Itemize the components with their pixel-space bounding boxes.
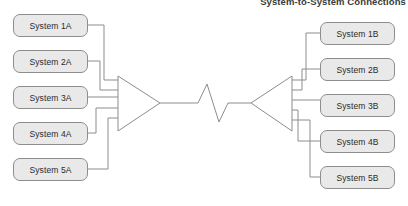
system-connection-diagram: System-to-System Connections System 1A S… [0, 0, 408, 206]
connector-system-1b [292, 33, 320, 80]
node-system-4b[interactable]: System 4B [320, 130, 395, 153]
node-system-3a[interactable]: System 3A [13, 86, 88, 109]
node-label: System 1B [337, 29, 379, 39]
node-label: System 3B [337, 101, 379, 111]
node-system-2a[interactable]: System 2A [13, 50, 88, 73]
node-label: System 4A [30, 129, 72, 139]
node-system-1b[interactable]: System 1B [320, 22, 395, 45]
node-label: System 2B [337, 65, 379, 75]
left-aggregation-triangle-icon [118, 76, 160, 131]
right-connector-group [292, 33, 320, 177]
right-aggregation-triangle-icon [251, 76, 292, 131]
zigzag-break-icon [198, 84, 228, 122]
node-system-3b[interactable]: System 3B [320, 94, 395, 117]
node-system-4a[interactable]: System 4A [13, 122, 88, 145]
connector-system-5a [88, 118, 118, 169]
left-connector-group [88, 25, 118, 169]
connector-system-1a [88, 25, 118, 80]
node-label: System 1A [30, 21, 72, 31]
connector-system-5b [292, 120, 320, 177]
node-label: System 5B [337, 173, 379, 183]
node-system-1a[interactable]: System 1A [13, 14, 88, 37]
node-label: System 4B [337, 137, 379, 147]
node-system-2b[interactable]: System 2B [320, 58, 395, 81]
connector-system-4b [292, 110, 320, 141]
node-system-5b[interactable]: System 5B [320, 166, 395, 189]
connector-system-4a [88, 108, 118, 133]
node-system-5a[interactable]: System 5A [13, 158, 88, 181]
node-label: System 3A [30, 93, 72, 103]
node-label: System 5A [30, 165, 72, 175]
connector-system-2a [88, 61, 118, 90]
node-label: System 2A [30, 57, 72, 67]
